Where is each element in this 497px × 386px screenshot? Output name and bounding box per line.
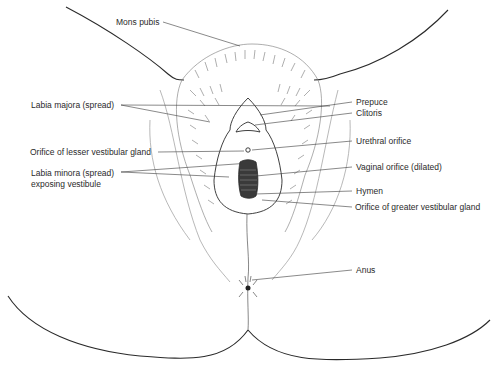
anatomical-diagram: Mons pubis Labia majora (spread) Orifice… xyxy=(0,0,497,386)
label-clitoris: Clitoris xyxy=(356,108,382,118)
label-labia-minora: Labia minora (spread) xyxy=(31,168,114,178)
perineum xyxy=(239,214,257,330)
label-mons-pubis: Mons pubis xyxy=(116,17,159,27)
label-orifice-greater-vestibular-gland: Orifice of greater vestibular gland xyxy=(355,202,480,212)
pubic-hair xyxy=(176,44,321,232)
anus-mark xyxy=(246,286,251,291)
label-orifice-lesser-vestibular-gland: Orifice of lesser vestibular gland xyxy=(30,147,151,157)
label-anus: Anus xyxy=(356,265,375,275)
label-hymen: Hymen xyxy=(356,186,383,196)
label-vaginal-orifice: Vaginal orifice (dilated) xyxy=(356,162,442,172)
label-labia-minora-line2: exposing vestibule xyxy=(31,179,101,189)
vaginal-orifice xyxy=(239,160,258,199)
leader-lines xyxy=(121,22,352,280)
label-labia-majora: Labia majora (spread) xyxy=(31,100,114,110)
label-prepuce: Prepuce xyxy=(356,97,388,107)
diagram-drawing xyxy=(0,0,497,386)
label-urethral-orifice: Urethral orifice xyxy=(356,136,411,146)
